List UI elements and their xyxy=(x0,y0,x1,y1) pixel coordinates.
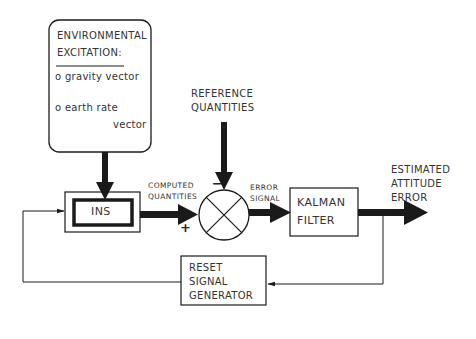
error-signal-line1: ERROR xyxy=(250,183,278,192)
env-item-gravity: o gravity vector xyxy=(55,71,139,84)
env-item-earth-rate: o earth rate xyxy=(55,102,118,115)
error-signal-line2: SIGNAL xyxy=(250,194,280,203)
computed-label-line1: COMPUTED xyxy=(148,181,194,190)
reference-label-line2: QUANTITIES xyxy=(191,102,254,115)
reset-label-line3: GENERATOR xyxy=(189,290,253,303)
plus-sign: + xyxy=(180,220,191,235)
reset-label-line2: SIGNAL xyxy=(189,276,228,289)
reset-label-line1: RESET xyxy=(189,262,223,275)
env-heading-line2: EXCITATION: xyxy=(57,47,122,60)
minus-sign: − xyxy=(212,176,223,191)
computed-label-line2: QUANTITIES xyxy=(148,192,197,201)
kalman-label-line1: KALMAN xyxy=(297,196,345,210)
output-label-line2: ATTITUDE xyxy=(391,178,442,191)
ins-label: INS xyxy=(91,205,111,219)
env-to-ins-arrow xyxy=(96,152,114,200)
junction-to-kalman-arrow xyxy=(249,202,291,223)
bullet-icon: o xyxy=(55,71,61,82)
env-heading-line1: ENVIRONMENTAL xyxy=(57,30,147,43)
env-item-earth-rate-cont: vector xyxy=(113,119,147,132)
reference-label-line1: REFERENCE xyxy=(191,88,253,101)
summing-junction xyxy=(199,190,249,240)
feedback-line-to-ins xyxy=(23,211,181,282)
output-label-line1: ESTIMATED xyxy=(391,164,450,177)
kalman-label-line2: FILTER xyxy=(297,214,335,228)
bullet-icon: o xyxy=(55,102,61,113)
output-label-line3: ERROR xyxy=(391,192,428,205)
